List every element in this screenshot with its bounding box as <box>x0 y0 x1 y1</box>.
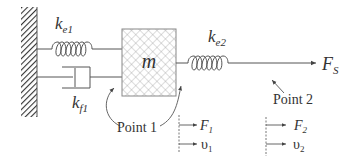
spring-ke2 <box>176 56 316 70</box>
v1-label: υ1 <box>201 137 212 154</box>
point2-label: Point 2 <box>273 92 313 107</box>
point1-label: Point 1 <box>117 120 157 135</box>
v2-label: υ2 <box>293 137 304 154</box>
spring-ke1 <box>37 42 122 56</box>
ke1-label: ke1 <box>55 14 73 35</box>
indicator-2 <box>266 117 286 156</box>
mechanical-diagram: ke1 kf1 m ke2 FS Point 1 Point 2 F1 υ1 F… <box>0 0 356 161</box>
damper-kf1 <box>37 67 122 88</box>
indicator-1 <box>179 115 197 152</box>
f2-label: F2 <box>293 118 308 135</box>
ke2-label: ke2 <box>208 27 226 48</box>
f1-label: F1 <box>199 118 213 135</box>
fs-label: FS <box>321 54 339 76</box>
kf1-label: kf1 <box>72 93 88 114</box>
fixed-wall <box>21 7 37 117</box>
mass-label: m <box>142 50 156 72</box>
